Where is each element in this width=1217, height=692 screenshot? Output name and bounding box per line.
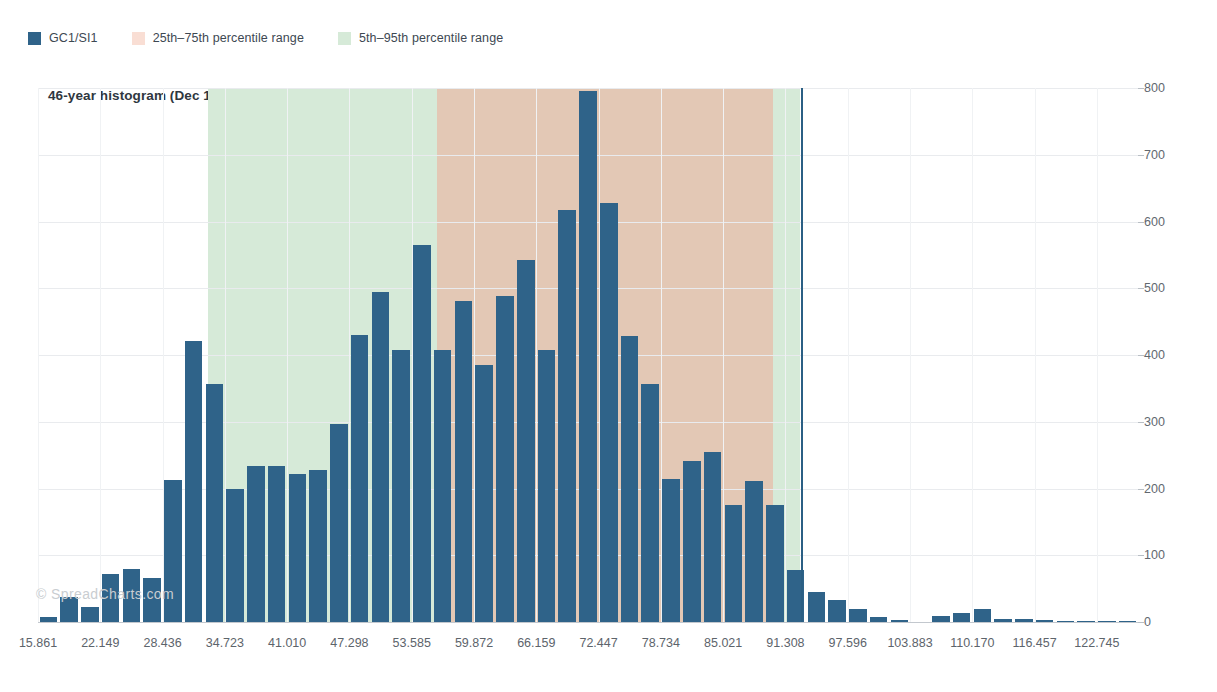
gridline-horizontal — [38, 622, 1138, 623]
histogram-bar[interactable] — [558, 210, 576, 622]
x-axis-tick-label: 53.585 — [393, 636, 431, 650]
histogram-bar[interactable] — [289, 474, 307, 622]
histogram-bar[interactable] — [849, 609, 867, 622]
watermark: © SpreadCharts.com — [36, 586, 174, 602]
series-swatch-icon — [28, 32, 41, 45]
histogram-bar[interactable] — [268, 466, 286, 622]
x-axis-tick-label: 85.021 — [704, 636, 742, 650]
histogram-bar[interactable] — [81, 607, 99, 622]
histogram-bar[interactable] — [1015, 619, 1033, 622]
chart-page: GC1/SI1 25th–75th percentile range 5th–9… — [0, 0, 1217, 692]
x-axis-tick-label: 78.734 — [642, 636, 680, 650]
x-axis-tick-label: 116.457 — [1012, 636, 1056, 650]
histogram-bars — [38, 88, 1138, 622]
histogram-bar[interactable] — [455, 301, 473, 622]
histogram-bar[interactable] — [891, 620, 909, 622]
histogram-bar[interactable] — [1057, 621, 1075, 622]
histogram-bar[interactable] — [392, 350, 410, 622]
y-axis-tick-label: 200 — [1144, 482, 1165, 496]
x-axis-tick-label: 22.149 — [81, 636, 119, 650]
histogram-bar[interactable] — [351, 335, 369, 622]
legend-item-p5p95-band[interactable]: 5th–95th percentile range — [338, 31, 503, 45]
histogram-bar[interactable] — [766, 505, 784, 622]
p5p95-band-swatch-icon — [338, 32, 351, 45]
x-axis-tick-label: 103.883 — [887, 636, 932, 650]
current-value-marker-line — [801, 88, 803, 622]
legend-label-iqr-band: 25th–75th percentile range — [153, 31, 304, 45]
histogram-bar[interactable] — [475, 365, 493, 622]
histogram-bar[interactable] — [1036, 620, 1054, 622]
y-axis-tick-label: 100 — [1144, 548, 1165, 562]
chart-legend: GC1/SI1 25th–75th percentile range 5th–9… — [28, 29, 503, 47]
plot-area: 0100200300400500600700800 15.86122.14928… — [38, 88, 1138, 622]
histogram-bar[interactable] — [953, 613, 971, 622]
histogram-bar[interactable] — [600, 203, 618, 622]
histogram-bar[interactable] — [247, 466, 265, 622]
x-axis-tick-label: 59.872 — [455, 636, 493, 650]
histogram-bar[interactable] — [683, 461, 701, 622]
histogram-bar[interactable] — [641, 384, 659, 622]
y-axis-tick-label: 300 — [1144, 415, 1165, 429]
histogram-bar[interactable] — [413, 245, 431, 622]
histogram-bar[interactable] — [496, 296, 514, 622]
x-axis-tick-label: 15.861 — [19, 636, 57, 650]
histogram-bar[interactable] — [226, 489, 244, 623]
x-axis-tick-label: 97.596 — [829, 636, 867, 650]
histogram-bar[interactable] — [932, 616, 950, 622]
histogram-bar[interactable] — [1077, 621, 1095, 622]
histogram-bar[interactable] — [40, 617, 58, 622]
legend-item-series[interactable]: GC1/SI1 — [28, 31, 98, 45]
legend-label-series: GC1/SI1 — [49, 31, 98, 45]
y-axis-tick-label: 800 — [1144, 81, 1165, 95]
x-axis-tick-label: 72.447 — [579, 636, 617, 650]
histogram-bar[interactable] — [828, 600, 846, 622]
x-axis-tick-label: 28.436 — [143, 636, 181, 650]
y-axis-tick-label: 500 — [1144, 281, 1165, 295]
x-axis-tick-label: 110.170 — [950, 636, 994, 650]
x-axis-tick-label: 66.159 — [517, 636, 555, 650]
x-axis-tick-label: 122.745 — [1074, 636, 1119, 650]
x-axis-tick-label: 91.308 — [766, 636, 804, 650]
histogram-bar[interactable] — [1098, 621, 1116, 622]
histogram-bar[interactable] — [434, 350, 452, 622]
histogram-bar[interactable] — [330, 424, 348, 622]
histogram-bar[interactable] — [745, 481, 763, 622]
legend-item-iqr-band[interactable]: 25th–75th percentile range — [132, 31, 304, 45]
histogram-bar[interactable] — [579, 91, 597, 622]
histogram-bar[interactable] — [309, 470, 327, 622]
y-axis-tick-label: 400 — [1144, 348, 1165, 362]
histogram-bar[interactable] — [517, 260, 535, 622]
y-axis-tick-label: 700 — [1144, 148, 1165, 162]
y-axis-tick-label: 0 — [1144, 615, 1151, 629]
histogram-bar[interactable] — [621, 336, 639, 622]
histogram-bar[interactable] — [870, 617, 888, 622]
histogram-bar[interactable] — [538, 350, 556, 622]
y-axis-tick-label: 600 — [1144, 215, 1165, 229]
x-axis-tick-label: 47.298 — [330, 636, 368, 650]
histogram-bar[interactable] — [1119, 621, 1137, 622]
histogram-bar[interactable] — [808, 592, 826, 622]
iqr-band-swatch-icon — [132, 32, 145, 45]
histogram-bar[interactable] — [994, 619, 1012, 622]
legend-label-p5p95-band: 5th–95th percentile range — [359, 31, 503, 45]
x-axis-tick-label: 41.010 — [268, 636, 306, 650]
histogram-bar[interactable] — [185, 341, 203, 622]
plot-inner — [38, 88, 1138, 622]
histogram-bar[interactable] — [725, 505, 743, 622]
histogram-bar[interactable] — [662, 479, 680, 623]
histogram-bar[interactable] — [704, 452, 722, 622]
histogram-bar[interactable] — [206, 384, 224, 622]
x-axis-tick-label: 34.723 — [206, 636, 244, 650]
histogram-bar[interactable] — [372, 292, 390, 622]
histogram-bar[interactable] — [974, 609, 992, 622]
